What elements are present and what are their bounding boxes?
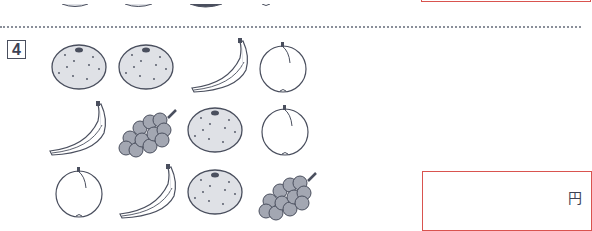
fruit-grid <box>0 0 420 223</box>
orange-icon <box>188 170 242 214</box>
peach-icon <box>260 42 306 92</box>
peach-icon <box>262 105 308 155</box>
banana-icon <box>50 101 105 155</box>
banana-icon <box>120 164 175 218</box>
orange-icon <box>188 108 242 152</box>
answer-unit-yen: 円 <box>568 187 582 207</box>
grapes-icon <box>259 173 316 220</box>
peach-icon <box>56 167 102 217</box>
previous-answer-box[interactable] <box>421 0 591 2</box>
grapes-icon <box>119 110 176 157</box>
answer-box[interactable] <box>422 171 592 231</box>
orange-icon <box>119 45 173 89</box>
banana-icon <box>192 38 247 92</box>
orange-icon <box>52 45 106 89</box>
